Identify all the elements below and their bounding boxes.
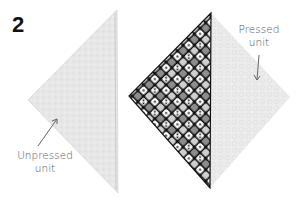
unpressed-arrow — [38, 119, 57, 146]
pressed-label-line2: unit — [234, 36, 284, 49]
unpressed-unit-label: Unpressed unit — [12, 149, 78, 175]
unpressed-label-line1: Unpressed — [12, 149, 78, 162]
unpressed-label-line2: unit — [12, 162, 78, 175]
pressed-unit-label: Pressed unit — [234, 23, 284, 49]
pressed-label-line1: Pressed — [234, 23, 284, 36]
